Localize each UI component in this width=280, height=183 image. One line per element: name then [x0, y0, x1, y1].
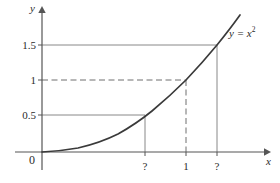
x-tick-label-sqrt-1p5: ?	[215, 161, 220, 172]
y-tick-label-0p5: 0.5	[0, 110, 36, 121]
curve-equation-exponent: 2	[252, 25, 256, 34]
x-tick-label-sqrt-0p5: ?	[143, 161, 148, 172]
y-axis-label: y	[30, 3, 35, 14]
y-axis-arrow-icon	[38, 6, 45, 13]
x-tick-label-1: 1	[183, 161, 189, 172]
y-tick-label-1p5: 1.5	[0, 40, 36, 51]
parabola-curve	[42, 15, 240, 152]
curve-equation-text: y = x	[229, 27, 252, 39]
x-axis-label: x	[266, 156, 271, 167]
function-graph-figure: y x 1.5 1 0.5 0 ? 1 ? y = x2	[0, 0, 280, 183]
curve-equation-label: y = x2	[229, 26, 255, 39]
y-tick-label-1: 1	[0, 75, 36, 86]
origin-label: 0	[29, 154, 35, 166]
